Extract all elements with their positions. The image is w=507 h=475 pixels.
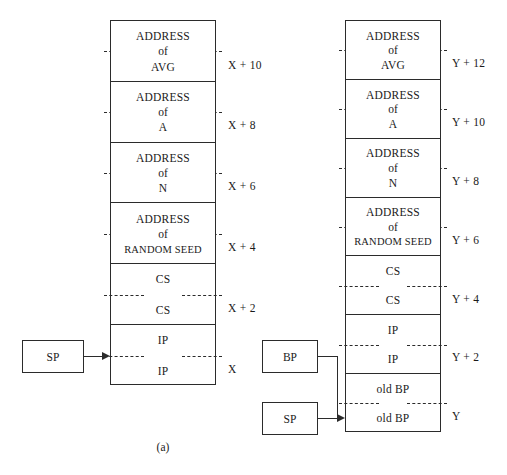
stack-cell-upper-word: IP <box>346 315 440 344</box>
stack-cell-lower-word: N <box>346 168 440 197</box>
memory-offset-label: Y + 12 <box>452 57 485 69</box>
memory-offset-label: X <box>228 363 237 375</box>
stack-cell-upper-text: ADDRESS <box>366 206 420 218</box>
stack-cell-lower-text: old BP <box>377 412 410 424</box>
stack-cell: CSCS <box>111 264 215 325</box>
stack-cell-lower-word: CS <box>346 286 440 315</box>
stack-cell-lower-word: IP <box>111 356 215 386</box>
stack-cell-lower-text: RANDOM SEED <box>124 244 202 255</box>
stack-cell-lower-text: AVG <box>151 61 175 73</box>
memory-offset-label: Y + 8 <box>452 175 479 187</box>
stack-cell: ADDRESSofN <box>111 143 215 204</box>
register-label-sp-right: SP <box>284 413 297 425</box>
stack-cell-upper-word: CS <box>111 264 215 294</box>
stack-cell: CSCS <box>346 256 440 315</box>
stack-cell-lower-text: A <box>389 118 398 130</box>
stack-frame-b: ADDRESSofAVGADDRESSofAADDRESSofNADDRESSo… <box>345 20 441 432</box>
figure-caption: (a) <box>130 441 196 453</box>
stack-cell-upper-text: CS <box>386 265 400 277</box>
memory-offset-label: Y + 2 <box>452 351 479 363</box>
stack-cell-upper-text: CS <box>156 273 170 285</box>
stack-cell: IPIP <box>346 315 440 374</box>
register-box-bp-right[interactable]: BP <box>262 340 318 373</box>
register-label-bp-right: BP <box>283 351 297 363</box>
stack-cell-lower-text: N <box>389 177 398 189</box>
stack-cell-lower-word: N <box>111 173 215 203</box>
memory-offset-label: X + 4 <box>228 241 256 253</box>
stack-cell-lower-text: A <box>159 121 168 133</box>
memory-offset-label: X + 6 <box>228 180 256 192</box>
figure-canvas: ADDRESSofAVGADDRESSofAADDRESSofNADDRESSo… <box>0 0 507 475</box>
memory-offset-label: X + 10 <box>228 59 262 71</box>
stack-cell: ADDRESSofRANDOM SEED <box>346 198 440 257</box>
stack-cell-lower-text: IP <box>158 365 169 377</box>
stack-cell-lower-text: CS <box>386 294 400 306</box>
memory-offset-label: Y + 4 <box>452 293 479 305</box>
stack-cell-lower-word: AVG <box>111 51 215 81</box>
stack-cell: old BPold BP <box>346 374 440 433</box>
stack-cell-upper-text: ADDRESS <box>366 89 420 101</box>
register-box-sp-left[interactable]: SP <box>22 340 84 373</box>
memory-offset-label: Y + 10 <box>452 116 485 128</box>
stack-cell: ADDRESSofA <box>346 80 440 139</box>
stack-cell-lower-text: N <box>159 182 168 194</box>
stack-cell-lower-text: RANDOM SEED <box>354 236 432 247</box>
stack-cell: ADDRESSofA <box>111 82 215 143</box>
stack-cell-upper-text: ADDRESS <box>136 91 190 103</box>
arrowhead-sp-right <box>337 414 345 422</box>
stack-cell-upper-text: IP <box>158 334 169 346</box>
stack-cell-lower-word: AVG <box>346 50 440 79</box>
connector-bp-right-seg-v <box>337 356 338 419</box>
stack-cell: IPIP <box>111 325 215 386</box>
stack-cell-upper-word: CS <box>346 256 440 285</box>
stack-cell-lower-word: A <box>111 112 215 142</box>
stack-cell-upper-word: IP <box>111 325 215 355</box>
stack-cell-lower-word: old BP <box>346 403 440 432</box>
register-label-sp-left: SP <box>47 351 60 363</box>
stack-cell-upper-text: ADDRESS <box>136 213 190 225</box>
stack-cell-upper-word: old BP <box>346 374 440 403</box>
stack-cell-upper-text: ADDRESS <box>366 30 420 42</box>
stack-frame-a: ADDRESSofAVGADDRESSofAADDRESSofNADDRESSo… <box>110 20 216 385</box>
stack-cell-lower-word: CS <box>111 295 215 325</box>
stack-cell-lower-word: A <box>346 109 440 138</box>
stack-cell-lower-word: RANDOM SEED <box>346 227 440 256</box>
stack-cell: ADDRESSofRANDOM SEED <box>111 203 215 264</box>
stack-cell-upper-text: ADDRESS <box>366 147 420 159</box>
stack-cell-lower-text: AVG <box>381 59 405 71</box>
memory-offset-label: X + 2 <box>228 302 256 314</box>
memory-offset-label: X + 8 <box>228 119 256 131</box>
register-box-sp-right[interactable]: SP <box>262 402 318 435</box>
stack-cell-lower-text: IP <box>388 353 399 365</box>
stack-cell-lower-word: RANDOM SEED <box>111 234 215 264</box>
stack-cell-upper-text: ADDRESS <box>136 30 190 42</box>
stack-cell-upper-text: ADDRESS <box>136 152 190 164</box>
stack-cell: ADDRESSofN <box>346 139 440 198</box>
stack-cell-upper-text: IP <box>388 324 399 336</box>
stack-cell-upper-text: old BP <box>377 383 410 395</box>
connector-bp-right-seg-h <box>318 356 338 357</box>
stack-cell: ADDRESSofAVG <box>111 21 215 82</box>
stack-cell: ADDRESSofAVG <box>346 21 440 80</box>
stack-cell-lower-text: CS <box>156 304 170 316</box>
arrowhead-sp-left <box>102 352 110 360</box>
memory-offset-label: Y <box>452 410 461 422</box>
stack-cell-lower-word: IP <box>346 345 440 374</box>
memory-offset-label: Y + 6 <box>452 234 479 246</box>
